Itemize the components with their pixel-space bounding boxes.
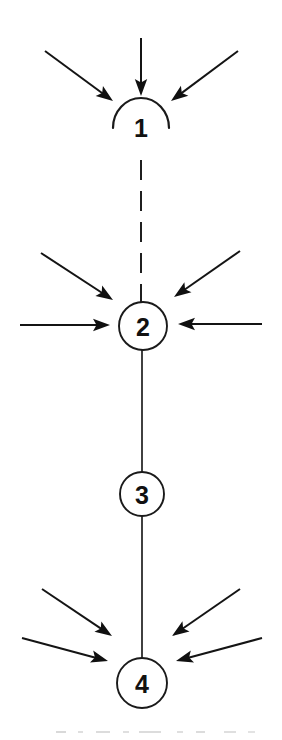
arrow-n2-upper-left-shaft [41,253,103,293]
node-2[interactable]: 2 [119,302,167,350]
diagram-canvas: 1 2 3 4 [0,0,282,740]
arrow-n4-lower-right [176,638,262,663]
node-1[interactable]: 1 [113,98,169,142]
arrow-n1-right-shaft [181,51,238,94]
arrow-n4-upper-left-head [94,621,112,636]
arrow-n1-left-head [96,86,113,101]
arrow-n4-upper-right-head [172,621,190,636]
arrow-n4-lower-right-shaft [187,638,262,658]
arrow-n4-upper-right [172,589,240,636]
arrow-n2-right [178,318,262,330]
node-3[interactable]: 3 [120,472,164,516]
link-layer [141,160,142,658]
node-2-label: 2 [136,313,150,341]
scan-noise-row [56,731,255,733]
arrow-n2-left [20,319,110,331]
arrow-n4-upper-right-shaft [182,589,240,629]
node-4-label: 4 [135,670,149,698]
node-chain-diagram: 1 2 3 4 [0,0,282,740]
node-1-label: 1 [134,114,148,142]
arrow-n2-upper-left-head [95,286,113,300]
arrow-n2-upper-right-shaft [184,251,240,290]
arrow-n2-upper-right-head [174,282,191,297]
arrow-n1-right [171,51,238,101]
arrow-n4-lower-left-shaft [22,638,97,658]
node-3-label: 3 [135,481,149,509]
arrow-n1-right-head [171,86,188,101]
arrow-n2-upper-right [174,251,240,297]
arrow-n1-top [135,38,147,96]
arrow-n4-lower-left [22,638,108,663]
arrow-n4-upper-left-shaft [42,589,102,629]
arrow-n2-upper-left [41,253,113,300]
node-layer: 1 2 3 4 [113,98,169,708]
arrow-n1-left-shaft [45,51,103,94]
node-4[interactable]: 4 [117,658,167,708]
arrow-n1-left [45,51,113,101]
arrow-n4-upper-left [42,589,112,636]
